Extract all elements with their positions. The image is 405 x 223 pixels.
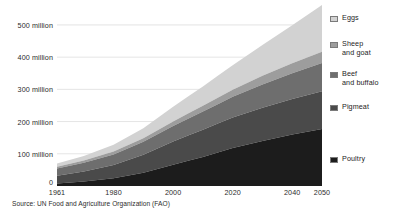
legend-item-sheep[interactable]: Sheepand goat: [330, 40, 371, 57]
y-tick-label: 500 million: [18, 20, 53, 29]
legend-label: Beefand buffalo: [342, 70, 379, 87]
x-tick-label: 2000: [165, 188, 181, 197]
x-tick-label: 2040: [284, 188, 300, 197]
legend-swatch-icon: [330, 72, 338, 78]
x-tick-label: 1961: [49, 188, 65, 197]
legend-swatch-icon: [330, 157, 338, 163]
y-tick-label: 400 million: [18, 53, 53, 62]
x-tick-label: 2020: [224, 188, 240, 197]
legend-label: Poultry: [342, 155, 365, 164]
legend-label: Sheepand goat: [342, 40, 371, 57]
legend-label: Eggs: [342, 14, 359, 23]
legend-label-line2: and buffalo: [342, 79, 379, 88]
plot-area: [57, 4, 322, 186]
legend-swatch-icon: [330, 42, 338, 48]
legend-label: Pigmeat: [342, 103, 369, 112]
y-tick-label: 200 million: [18, 117, 53, 126]
stacked-area-chart-figure: 0100 million200 million300 million400 mi…: [0, 0, 405, 223]
y-tick-label: 100 million: [18, 149, 53, 158]
legend-label-line2: and goat: [342, 49, 371, 58]
source-note: Source: UN Food and Agriculture Organiza…: [12, 200, 170, 207]
legend-swatch-icon: [330, 105, 338, 111]
legend-item-beef[interactable]: Beefand buffalo: [330, 70, 379, 87]
legend-swatch-icon: [330, 16, 338, 22]
x-tick-label: 2050: [314, 188, 330, 197]
chart-legend: EggsSheepand goatBeefand buffaloPigmeatP…: [330, 0, 405, 190]
legend-item-pigmeat[interactable]: Pigmeat: [330, 103, 369, 112]
legend-item-poultry[interactable]: Poultry: [330, 155, 365, 164]
y-tick-label: 300 million: [18, 85, 53, 94]
legend-item-eggs[interactable]: Eggs: [330, 14, 359, 23]
y-tick-label: 0: [49, 178, 53, 187]
x-tick-label: 1980: [105, 188, 121, 197]
chart-canvas: [57, 4, 322, 186]
